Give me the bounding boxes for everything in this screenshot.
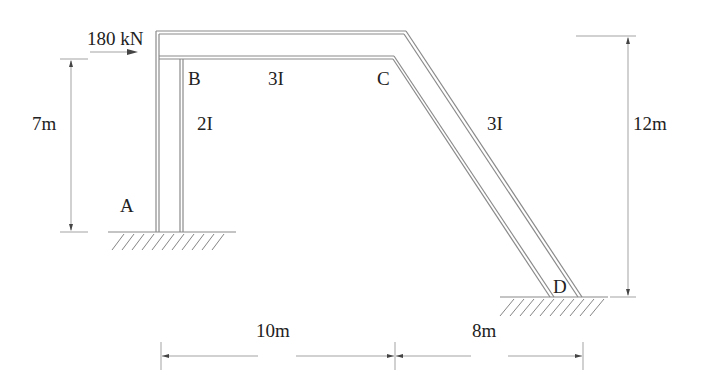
fixed-support-d bbox=[500, 297, 608, 316]
dim-span-bc-label: 10m bbox=[256, 320, 290, 341]
member-cd-stiffness: 3I bbox=[487, 113, 503, 134]
node-label-a: A bbox=[120, 195, 134, 216]
frame-members bbox=[156, 31, 582, 297]
fixed-support-a bbox=[108, 232, 236, 250]
dim-left-height-label: 7m bbox=[32, 113, 57, 134]
member-bc-stiffness: 3I bbox=[268, 68, 284, 89]
frame-diagram: 180 kN B 3I C 2I 3I A D 7m 12m 10m 8m bbox=[0, 0, 706, 386]
member-ab-stiffness: 2I bbox=[197, 113, 213, 134]
dim-bottom-spans bbox=[161, 342, 583, 370]
node-label-c: C bbox=[377, 68, 390, 89]
node-label-d: D bbox=[553, 276, 567, 297]
load-arrow bbox=[90, 49, 138, 55]
dim-right-height bbox=[576, 36, 636, 297]
node-label-b: B bbox=[188, 68, 201, 89]
dim-span-cd-label: 8m bbox=[472, 320, 497, 341]
dim-left-height bbox=[60, 59, 88, 232]
dim-right-height-label: 12m bbox=[633, 113, 667, 134]
load-label: 180 kN bbox=[87, 28, 144, 49]
